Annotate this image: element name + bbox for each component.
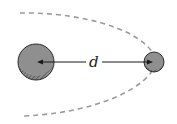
orbit-diagram: d: [0, 0, 177, 124]
large-body: [18, 44, 54, 82]
distance-label: d: [89, 53, 99, 71]
